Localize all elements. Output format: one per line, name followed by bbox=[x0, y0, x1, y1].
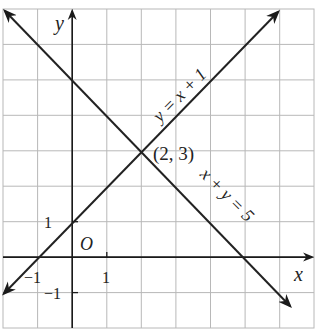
line-label-y-equals-x-plus-1: y = x + 1 bbox=[147, 64, 210, 127]
line-x-plus-y-equals-5 bbox=[5, 11, 290, 306]
y-tick-label-neg1: −1 bbox=[44, 285, 61, 302]
line-label-x-plus-y-equals-5: x + y = 5 bbox=[196, 163, 258, 225]
origin-label: O bbox=[80, 234, 93, 254]
y-axis-label: y bbox=[53, 12, 64, 35]
x-axis-label: x bbox=[293, 263, 303, 285]
intersection-label: (2, 3) bbox=[153, 143, 194, 165]
x-tick-label-1: 1 bbox=[102, 269, 110, 286]
x-tick-label-neg1: −1 bbox=[24, 269, 41, 286]
coordinate-plane: y x O −1 1 1 −1 (2, 3) y = x + 1 x + y =… bbox=[0, 0, 319, 336]
y-tick-label-1: 1 bbox=[44, 214, 52, 231]
